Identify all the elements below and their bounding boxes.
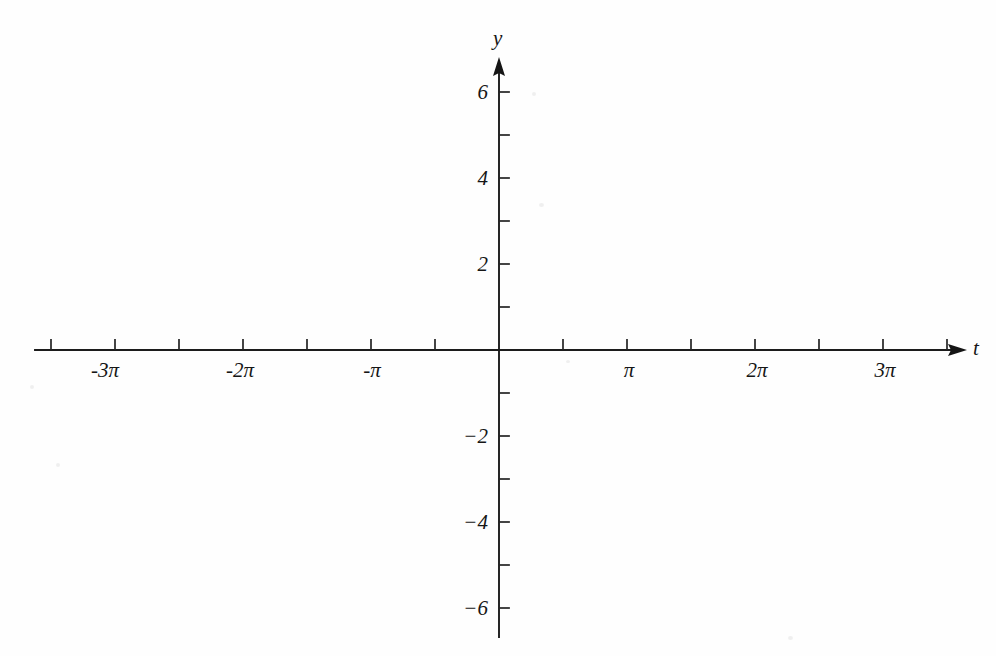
- y-tick-label-neg-6: −6: [463, 598, 488, 619]
- x-tick-label-neg-2pi: -2π: [226, 360, 254, 381]
- x-tick-label-2pi: 2π: [746, 360, 767, 381]
- scan-speck: [539, 203, 544, 207]
- scan-speck: [30, 385, 34, 389]
- x-tick-label-neg-pi: -π: [363, 360, 381, 381]
- x-tick-label-pi: π: [624, 360, 635, 381]
- scan-speck: [788, 636, 793, 640]
- y-tick-label-neg-4: −4: [463, 512, 488, 533]
- y-tick-label-neg-2: −2: [463, 426, 488, 447]
- y-tick-label-2: 2: [478, 254, 489, 275]
- coordinate-plane-figure: -3π -2π -π π 2π 3π 6 4 2 −2 −4 −6 y t: [0, 0, 996, 656]
- y-tick-label-4: 4: [478, 168, 489, 189]
- axes-svg: [0, 0, 996, 656]
- y-axis-label: y: [493, 28, 502, 49]
- scan-speck: [532, 92, 536, 96]
- scan-speck: [56, 463, 60, 467]
- x-tick-label-3pi: 3π: [874, 360, 895, 381]
- y-tick-label-6: 6: [478, 82, 489, 103]
- scan-speck: [566, 360, 570, 363]
- x-tick-label-neg-3pi: -3π: [91, 360, 119, 381]
- x-axis-label: t: [973, 338, 979, 359]
